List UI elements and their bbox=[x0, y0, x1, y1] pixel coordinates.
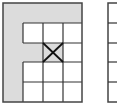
left-grid bbox=[3, 3, 82, 102]
puzzle-figure bbox=[0, 0, 117, 106]
right-grid bbox=[108, 3, 117, 102]
right-grid-border bbox=[108, 3, 117, 102]
shaded-left-band bbox=[3, 3, 23, 102]
